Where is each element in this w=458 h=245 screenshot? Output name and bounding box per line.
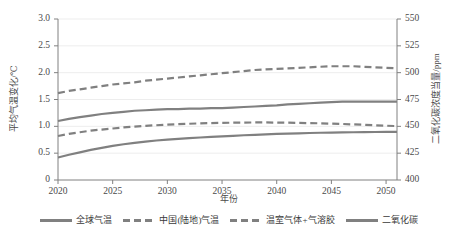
series-line-0 xyxy=(58,102,397,121)
x-axis-tick: 2040 xyxy=(257,186,297,196)
legend-label: 温室气体+气溶胶 xyxy=(266,216,334,225)
x-axis-tick: 2050 xyxy=(366,186,406,196)
x-axis-tick: 2020 xyxy=(38,186,78,196)
legend-swatch-dashed xyxy=(230,219,262,222)
legend-item-3[interactable]: 二氧化碳 xyxy=(346,216,418,225)
y-axis-left-tick: 0.5 xyxy=(24,147,50,157)
y-axis-right-tick: 550 xyxy=(405,13,431,23)
y-axis-right-tick: 475 xyxy=(405,94,431,104)
chart-plot-area xyxy=(0,0,458,245)
y-axis-left-tick: 3.0 xyxy=(24,13,50,23)
x-axis-tick: 2045 xyxy=(311,186,351,196)
legend-item-0[interactable]: 全球气温 xyxy=(40,216,112,225)
y-axis-left-title: 平均气温变化/℃ xyxy=(7,39,20,159)
legend-label: 中国(陆地)气温 xyxy=(159,216,219,225)
y-axis-left-tick: 2.5 xyxy=(24,40,50,50)
legend-label: 二氧化碳 xyxy=(382,216,418,225)
series-line-3 xyxy=(58,132,397,158)
legend-label: 全球气温 xyxy=(76,216,112,225)
y-axis-left-tick: 2.0 xyxy=(24,67,50,77)
y-axis-left-tick: 1.5 xyxy=(24,94,50,104)
y-axis-right-tick: 425 xyxy=(405,147,431,157)
legend-swatch-solid xyxy=(40,219,72,222)
legend-swatch-solid xyxy=(346,219,378,222)
x-axis-tick: 2035 xyxy=(202,186,242,196)
legend-item-1[interactable]: 中国(陆地)气温 xyxy=(123,216,219,225)
chart-legend: 全球气温中国(陆地)气温温室气体+气溶胶二氧化碳 xyxy=(0,216,458,225)
y-axis-left-tick: 0 xyxy=(24,174,50,184)
legend-item-2[interactable]: 温室气体+气溶胶 xyxy=(230,216,334,225)
legend-swatch-dashed xyxy=(123,219,155,222)
y-axis-right-tick: 450 xyxy=(405,120,431,130)
y-axis-right-tick: 400 xyxy=(405,174,431,184)
series-line-2 xyxy=(58,122,397,136)
y-axis-left-tick: 1.0 xyxy=(24,120,50,130)
y-axis-right-tick: 525 xyxy=(405,40,431,50)
climate-projection-chart: 平均气温变化/℃ 二氧化碳浓度当量/ppm 年份 00.51.01.52.02.… xyxy=(0,0,458,245)
y-axis-right-tick: 500 xyxy=(405,67,431,77)
x-axis-tick: 2030 xyxy=(147,186,187,196)
x-axis-tick: 2025 xyxy=(93,186,133,196)
series-line-1 xyxy=(58,66,397,93)
